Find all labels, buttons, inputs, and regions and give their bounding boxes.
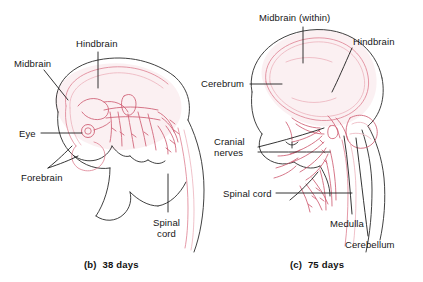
leader-forebrain-b — [48, 146, 72, 168]
label-cerebrum-c: Cerebrum — [201, 78, 244, 89]
caption-panel-b: (b) 38 days — [84, 259, 139, 270]
label-midbrain-b: Midbrain — [14, 58, 51, 69]
leader-cranial-nerves-c — [258, 128, 324, 147]
label-hindbrain-b: Hindbrain — [76, 38, 118, 49]
label-cerebellum-c: Cerebellum — [345, 239, 395, 250]
leader-forebrain-b-2 — [48, 156, 78, 168]
label-medulla-c: Medulla — [330, 218, 364, 229]
label-eye-b: Eye — [19, 128, 36, 139]
label-hindbrain-c: Hindbrain — [353, 36, 395, 47]
caption-panel-c: (c) 75 days — [290, 259, 344, 270]
label-midbrain-c: Midbrain (within) — [259, 12, 330, 23]
label-cranial-nerves-c: Cranial nerves — [214, 136, 245, 158]
panel-c-fetus-drawing — [250, 27, 385, 252]
figure-root: .body { fill:none; stroke:#2b2b2b; strok… — [0, 0, 423, 282]
label-spinal-cord-b: Spinal cord — [153, 217, 180, 239]
label-spinal-cord-c: Spinal cord — [223, 188, 272, 199]
label-forebrain-b: Forebrain — [21, 172, 63, 183]
